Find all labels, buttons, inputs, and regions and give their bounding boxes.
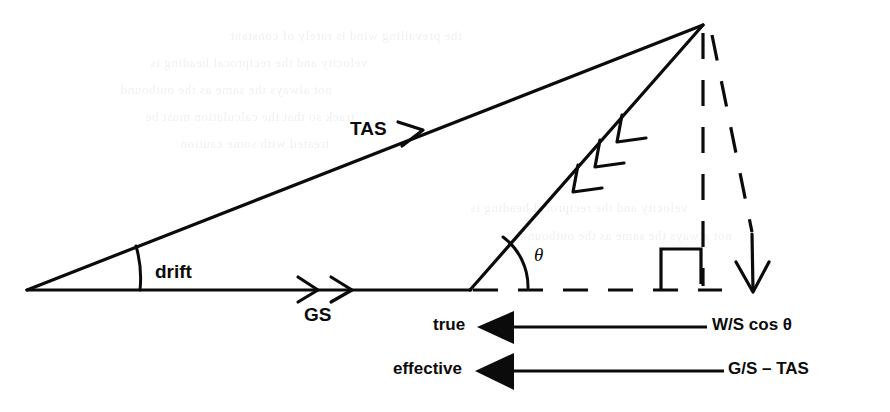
true-headwind-arrowhead bbox=[477, 311, 514, 344]
wind-speed-arrowheads bbox=[573, 115, 646, 192]
vertical-component-arrow bbox=[736, 234, 769, 292]
true-headwind-arrow bbox=[477, 311, 707, 344]
drift-angle-label: drift bbox=[155, 262, 192, 281]
wind-triangle-drawing bbox=[0, 0, 890, 412]
wind-triangle-figure: the prevailing wind is rarely of constan… bbox=[0, 0, 890, 412]
ws-cos-theta-label: W/S cos θ bbox=[712, 316, 792, 333]
theta-angle-label: θ bbox=[534, 245, 543, 264]
true-airspeed-vector-line bbox=[27, 25, 703, 290]
effective-headwind-arrow bbox=[475, 353, 724, 390]
slanted-dashed-drop bbox=[712, 35, 752, 232]
tas-label: TAS bbox=[350, 119, 387, 138]
true-headwind-label: true bbox=[433, 316, 465, 333]
effective-headwind-arrowhead bbox=[475, 353, 514, 390]
gs-minus-tas-label: G/S – TAS bbox=[728, 360, 809, 377]
effective-headwind-label: effective bbox=[393, 360, 462, 377]
theta-angle-arc bbox=[503, 237, 528, 288]
right-angle-marker bbox=[661, 249, 701, 290]
gs-label: GS bbox=[304, 305, 331, 324]
drift-angle-arc bbox=[136, 246, 141, 290]
